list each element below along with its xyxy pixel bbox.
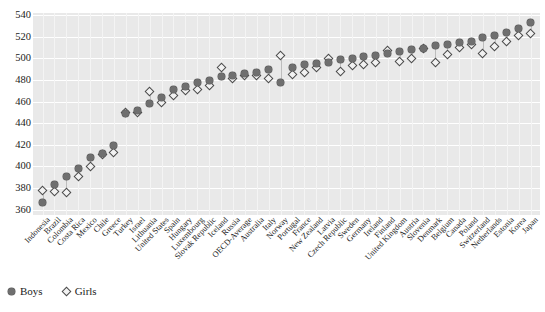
data-point-boys	[63, 173, 70, 180]
gridline-vertical	[412, 13, 413, 215]
gridline-vertical	[400, 13, 401, 215]
data-point-boys	[134, 107, 141, 114]
data-point-boys	[87, 154, 94, 161]
data-point-boys	[408, 46, 415, 53]
chart-legend: Boys Girls	[8, 285, 97, 297]
data-point-boys	[158, 94, 165, 101]
gridline-horizontal	[33, 145, 540, 146]
y-axis-tick-label: 460	[3, 97, 31, 107]
data-point-boys	[277, 79, 284, 86]
data-point-boys	[75, 165, 82, 172]
y-axis-tick-label: 440	[3, 118, 31, 128]
gridline-vertical	[209, 13, 210, 215]
open-diamond-icon	[61, 286, 71, 296]
y-axis-tick-label: 540	[3, 10, 31, 20]
data-point-girls	[288, 70, 298, 80]
gridline-horizontal	[33, 102, 540, 103]
science-scores-by-gender-chart: 360380400420440460480500520540 Indonesia…	[0, 0, 545, 312]
data-point-boys	[527, 19, 534, 26]
gridline-vertical	[173, 13, 174, 215]
data-point-boys	[146, 100, 153, 107]
data-point-girls	[85, 161, 95, 171]
gridline-vertical	[531, 13, 532, 215]
data-point-boys	[39, 199, 46, 206]
gridline-vertical	[150, 13, 151, 215]
y-axis: 360380400420440460480500520540	[0, 0, 31, 230]
gridline-vertical	[162, 13, 163, 215]
gridline-vertical	[269, 13, 270, 215]
data-point-girls	[192, 85, 202, 95]
gridline-vertical	[90, 13, 91, 215]
data-point-girls	[407, 53, 417, 63]
legend-label-boys: Boys	[20, 285, 43, 297]
gridline-vertical	[221, 13, 222, 215]
data-point-boys	[503, 29, 510, 36]
data-point-girls	[145, 87, 155, 97]
data-point-girls	[514, 31, 524, 41]
data-point-boys	[384, 50, 391, 57]
data-point-girls	[73, 171, 83, 181]
data-point-boys	[265, 66, 272, 73]
data-point-boys	[444, 41, 451, 48]
data-point-girls	[478, 48, 488, 58]
gridline-vertical	[43, 13, 44, 215]
x-axis: IndonesiaBrazilColombiaCosta RicaMexicoC…	[33, 216, 545, 286]
data-point-boys	[420, 45, 427, 52]
gridline-horizontal	[33, 37, 540, 38]
data-point-boys	[110, 142, 117, 149]
data-point-girls	[299, 67, 309, 77]
y-axis-tick-label: 520	[3, 32, 31, 42]
gridline-vertical	[364, 13, 365, 215]
gridline-vertical	[233, 13, 234, 215]
data-point-boys	[206, 77, 213, 84]
gridline-vertical	[304, 13, 305, 215]
legend-item-boys[interactable]: Boys	[8, 285, 43, 297]
data-point-boys	[99, 150, 106, 157]
data-point-boys	[515, 25, 522, 32]
data-point-girls	[216, 62, 226, 72]
gridline-vertical	[185, 13, 186, 215]
data-point-girls	[38, 185, 48, 195]
y-axis-tick-label: 400	[3, 161, 31, 171]
legend-label-girls: Girls	[75, 285, 97, 297]
gridline-vertical	[114, 13, 115, 215]
gridline-horizontal	[33, 58, 540, 59]
gridline-horizontal	[33, 15, 540, 16]
gridline-vertical	[257, 13, 258, 215]
data-point-boys	[337, 56, 344, 63]
gridline-vertical	[388, 13, 389, 215]
data-point-boys	[301, 61, 308, 68]
gridline-vertical	[102, 13, 103, 215]
gridline-horizontal	[33, 80, 540, 81]
data-point-girls	[335, 66, 345, 76]
y-axis-tick-label: 500	[3, 53, 31, 63]
gridline-vertical	[340, 13, 341, 215]
data-point-boys	[289, 64, 296, 71]
legend-item-girls[interactable]: Girls	[63, 285, 97, 297]
y-axis-tick-label: 360	[3, 205, 31, 215]
data-point-boys	[194, 79, 201, 86]
data-point-boys	[182, 83, 189, 90]
data-point-boys	[468, 38, 475, 45]
data-point-boys	[491, 32, 498, 39]
data-point-boys	[372, 52, 379, 59]
data-point-girls	[347, 61, 357, 71]
y-axis-tick-label: 480	[3, 75, 31, 85]
data-point-boys	[122, 110, 129, 117]
y-axis-tick-label: 420	[3, 140, 31, 150]
filled-circle-icon	[8, 288, 15, 295]
data-point-boys	[456, 39, 463, 46]
gridline-vertical	[328, 13, 329, 215]
data-point-boys	[325, 59, 332, 66]
data-point-boys	[218, 73, 225, 80]
data-point-girls	[264, 74, 274, 84]
data-point-girls	[359, 60, 369, 70]
data-point-girls	[490, 42, 500, 52]
data-point-boys	[432, 42, 439, 49]
gridline-vertical	[352, 13, 353, 215]
y-axis-tick-label: 380	[3, 183, 31, 193]
gridline-horizontal	[33, 166, 540, 167]
data-point-boys	[396, 48, 403, 55]
gridline-vertical	[78, 13, 79, 215]
gridline-vertical	[519, 13, 520, 215]
